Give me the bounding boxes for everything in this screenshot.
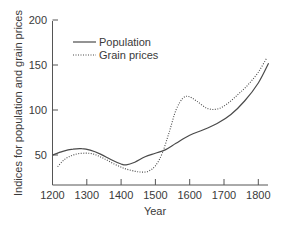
- series-layer: [53, 58, 269, 172]
- y-axis-label: Indices for population and grain prices: [12, 10, 24, 196]
- y-tick-label: 150: [29, 59, 47, 71]
- series-line-population: [53, 63, 269, 165]
- x-tick-label: 1700: [212, 189, 236, 201]
- legend: Population Grain prices: [73, 36, 159, 61]
- y-tick-label: 100: [29, 104, 47, 116]
- y-tick-label: 50: [35, 149, 47, 161]
- legend-label-grain-prices: Grain prices: [99, 49, 159, 61]
- x-tick-label: 1500: [143, 189, 167, 201]
- x-tick-label: 1800: [246, 189, 270, 201]
- legend-label-population: Population: [99, 36, 151, 48]
- x-ticks: 1200130014001500160017001800: [40, 179, 270, 201]
- x-tick-label: 1400: [109, 189, 133, 201]
- x-axis-label: Year: [144, 205, 167, 217]
- x-tick-label: 1200: [40, 189, 64, 201]
- series-line-grain-prices: [58, 58, 267, 172]
- x-tick-label: 1300: [75, 189, 99, 201]
- line-chart: 50100150200 1200130014001500160017001800…: [0, 0, 285, 225]
- y-tick-label: 200: [29, 14, 47, 26]
- x-tick-label: 1600: [177, 189, 201, 201]
- y-ticks: 50100150200: [29, 14, 58, 161]
